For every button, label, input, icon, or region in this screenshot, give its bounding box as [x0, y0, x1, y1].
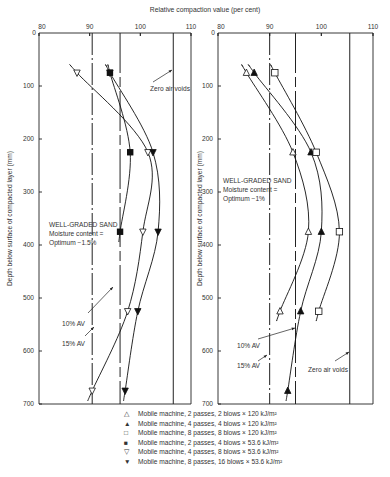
arrowhead-icon: [292, 328, 295, 331]
legend-label: Mobile machine, 2 passes, 2 blows × 120 …: [138, 409, 277, 419]
x-tick-label: 100: [316, 23, 327, 30]
y-tick-label: 100: [23, 82, 34, 89]
triangle-down-marker: [150, 150, 156, 156]
arrowhead-icon: [169, 70, 172, 73]
reference-label: 15% AV: [237, 362, 261, 369]
reference-label: 10% AV: [62, 320, 86, 327]
panel-annotation: WELL-GRADED SAND: [49, 221, 118, 228]
triangle-up-marker: [285, 387, 291, 393]
triangle-down-marker: [124, 309, 130, 315]
x-tick-label: 110: [186, 23, 197, 30]
arrow-icon: [153, 70, 172, 82]
arrow-icon: [258, 328, 295, 339]
y-tick-label: 0: [211, 29, 215, 36]
legend-label: Mobile machine, 8 passes, 8 blows × 120 …: [138, 428, 277, 438]
y-tick-label: 700: [202, 400, 213, 407]
legend-item: ■Mobile machine, 2 passes, 4 blows × 53.…: [124, 438, 282, 448]
triangle-up-marker: [318, 228, 324, 234]
filled-down-triangle-icon: ▼: [124, 457, 138, 467]
y-tick-label: 200: [202, 135, 213, 142]
triangle-up-marker: [243, 69, 249, 75]
y-axis-title: Depth below surface of compacted layer (…: [196, 151, 204, 286]
triangle-down-marker: [89, 388, 95, 394]
x-tick-label: 90: [266, 23, 274, 30]
y-tick-label: 700: [23, 400, 34, 407]
legend-label: Mobile machine, 8 passes, 16 blows × 53.…: [138, 457, 282, 467]
panel-annotation: Moisture content =: [49, 230, 104, 237]
y-tick-label: 400: [23, 241, 34, 248]
square-marker: [313, 149, 319, 155]
open-down-triangle-icon: ▽: [124, 447, 138, 457]
legend-label: Mobile machine, 4 passes, 8 blows × 53.6…: [138, 447, 279, 457]
reference-label: Zero air voids: [308, 366, 349, 373]
legend-label: Mobile machine, 2 passes, 4 blows × 53.6…: [138, 438, 279, 448]
legend-label: Mobile machine, 4 passes, 4 blows × 120 …: [138, 419, 277, 429]
square-marker: [316, 308, 322, 314]
y-tick-label: 500: [202, 294, 213, 301]
arrowhead-icon: [346, 352, 349, 355]
y-tick-label: 0: [32, 29, 36, 36]
open-up-triangle-icon: △: [124, 409, 138, 419]
panel-annotation: WELL-GRADED SAND: [223, 177, 292, 184]
legend: △Mobile machine, 2 passes, 2 blows × 120…: [124, 409, 282, 467]
x-tick-label: 100: [135, 23, 146, 30]
legend-item: ▽Mobile machine, 4 passes, 8 blows × 53.…: [124, 447, 282, 457]
y-tick-label: 400: [202, 241, 213, 248]
y-tick-label: 100: [202, 82, 213, 89]
y-tick-label: 300: [23, 188, 34, 195]
y-tick-label: 500: [23, 294, 34, 301]
square-marker: [272, 70, 278, 76]
triangle-up-marker: [305, 228, 311, 234]
y-tick-label: 600: [23, 347, 34, 354]
reference-label: 15% AV: [62, 340, 86, 347]
x-tick-label: 110: [368, 23, 379, 30]
triangle-down-marker: [155, 229, 161, 235]
chart-panels: 80901001100100200300400500600700Depth be…: [6, 23, 379, 407]
x-tick-label: 90: [86, 23, 94, 30]
y-axis-title: Depth below surface of compacted layer (…: [6, 151, 14, 286]
arrowhead-icon: [264, 355, 267, 358]
filled-square-icon: ■: [124, 438, 138, 448]
legend-item: ▼Mobile machine, 8 passes, 16 blows × 53…: [124, 457, 282, 467]
open-square-icon: □: [124, 428, 138, 438]
panel-annotation: Moisture content =: [223, 186, 278, 193]
x-tick-label: 80: [38, 23, 46, 30]
filled-up-triangle-icon: ▲: [124, 419, 138, 429]
x-tick-label: 80: [217, 23, 225, 30]
y-tick-label: 300: [202, 188, 213, 195]
triangle-down-marker: [122, 388, 128, 394]
square-marker: [117, 229, 123, 235]
series-curve: [105, 65, 159, 401]
chart-panel-right: 80901001100100200300400500600700Depth be…: [196, 23, 379, 407]
square-marker: [336, 229, 342, 235]
legend-item: △Mobile machine, 2 passes, 2 blows × 120…: [124, 409, 282, 419]
triangle-up-marker: [297, 308, 303, 314]
triangle-down-marker: [135, 309, 141, 315]
reference-label: 10% AV: [237, 342, 261, 349]
y-tick-label: 200: [23, 135, 34, 142]
reference-label: Zero air voids: [150, 85, 191, 92]
panel-annotation: Optimum −1.5%: [49, 239, 97, 247]
chart-panel-left: 80901001100100200300400500600700Depth be…: [6, 23, 197, 407]
y-tick-label: 600: [202, 347, 213, 354]
legend-item: ▲Mobile machine, 4 passes, 4 blows × 120…: [124, 419, 282, 429]
square-marker: [127, 149, 133, 155]
triangle-down-marker: [140, 229, 146, 235]
legend-item: □Mobile machine, 8 passes, 8 blows × 120…: [124, 428, 282, 438]
panel-annotation: Optimum −1%: [223, 195, 265, 203]
compaction-chart: Relative compaction value (per cent) 809…: [0, 0, 390, 477]
triangle-up-marker: [277, 308, 283, 314]
x-axis-title: Relative compaction value (per cent): [150, 6, 260, 14]
